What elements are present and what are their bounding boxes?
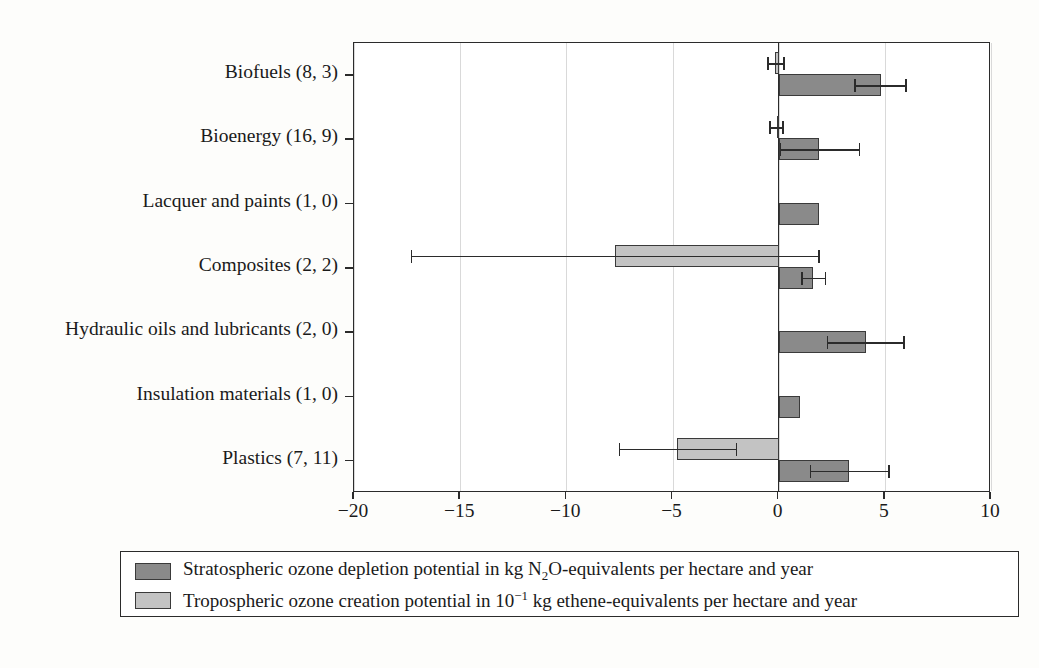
chart-figure: Biofuels (8, 3)Bioenergy (16, 9)Lacquer … [0, 0, 1039, 668]
legend-label-stratospheric: Stratospheric ozone depletion potential … [183, 558, 813, 584]
chart-legend: Stratospheric ozone depletion potential … [120, 551, 1019, 617]
bar-group [354, 43, 989, 107]
errorbar-tropospheric-cap-low [411, 250, 412, 263]
errorbar-stratospheric-line [811, 471, 890, 472]
y-axis-label-slot: Lacquer and paints (1, 0) [0, 190, 338, 216]
errorbar-stratospheric-cap-low [810, 465, 811, 478]
x-axis-tick [565, 492, 567, 499]
errorbar-stratospheric-line [855, 85, 906, 86]
y-axis-tick [345, 203, 353, 205]
x-axis-tick [883, 492, 885, 499]
errorbar-tropospheric-line [770, 127, 783, 128]
legend-swatch-stratospheric [135, 563, 171, 580]
x-axis-tick-label: −10 [530, 500, 600, 522]
x-axis-tick [352, 492, 354, 499]
x-axis-tick [671, 492, 673, 499]
errorbar-stratospheric-cap-high [859, 143, 860, 156]
errorbar-stratospheric-cap-low [854, 79, 855, 92]
legend-row-stratospheric: Stratospheric ozone depletion potential … [135, 557, 1008, 585]
errorbar-stratospheric-line [781, 149, 860, 150]
x-axis-tick-label: 0 [743, 500, 813, 522]
errorbar-tropospheric-cap-high [782, 121, 783, 134]
y-axis-tick [345, 331, 353, 333]
y-axis-label-slot: Bioenergy (16, 9) [0, 125, 338, 151]
errorbar-stratospheric-cap-low [780, 143, 781, 156]
x-axis-tick [989, 492, 991, 499]
legend-label-tropospheric: Tropospheric ozone creation potential in… [183, 588, 857, 612]
errorbar-stratospheric-line [828, 342, 904, 343]
errorbar-tropospheric-cap-high [783, 57, 784, 70]
x-axis-tick [777, 492, 779, 499]
errorbar-stratospheric-cap-high [905, 79, 906, 92]
bar-group [354, 172, 989, 236]
y-axis-category-label: Lacquer and paints (1, 0) [0, 190, 338, 212]
plot-area [353, 42, 990, 492]
y-axis-tick [345, 138, 353, 140]
errorbar-tropospheric-line [768, 63, 784, 64]
errorbar-stratospheric-cap-low [801, 272, 802, 285]
legend-swatch-tropospheric [135, 592, 171, 609]
x-axis-tick-label: −5 [637, 500, 707, 522]
errorbar-tropospheric-cap-low [619, 443, 620, 456]
errorbar-stratospheric-cap-high [825, 272, 826, 285]
bar-stratospheric [779, 203, 819, 225]
y-axis-category-label: Plastics (7, 11) [0, 447, 338, 469]
y-axis-category-label: Composites (2, 2) [0, 254, 338, 276]
x-axis-tick-label: −20 [318, 500, 388, 522]
errorbar-tropospheric-cap-high [818, 250, 819, 263]
y-axis-label-slot: Biofuels (8, 3) [0, 61, 338, 87]
y-axis-tick [345, 74, 353, 76]
errorbar-tropospheric-cap-high [736, 443, 737, 456]
legend-row-tropospheric: Tropospheric ozone creation potential in… [135, 586, 1008, 614]
y-axis-tick [345, 267, 353, 269]
y-axis-label-slot: Insulation materials (1, 0) [0, 383, 338, 409]
errorbar-tropospheric-cap-low [767, 57, 768, 70]
y-axis-category-label: Hydraulic oils and lubricants (2, 0) [0, 318, 338, 340]
errorbar-tropospheric-line [619, 449, 736, 450]
bar-group [354, 300, 989, 364]
bar-group [354, 107, 989, 171]
y-axis-label-slot: Hydraulic oils and lubricants (2, 0) [0, 318, 338, 344]
errorbar-tropospheric-cap-low [769, 121, 770, 134]
errorbar-tropospheric-line [411, 256, 819, 257]
y-axis-label-slot: Composites (2, 2) [0, 254, 338, 280]
bar-group [354, 429, 989, 493]
y-axis-category-label: Bioenergy (16, 9) [0, 125, 338, 147]
errorbar-stratospheric-line [802, 278, 825, 279]
x-axis-tick-label: 10 [955, 500, 1025, 522]
x-axis-tick-label: 5 [849, 500, 919, 522]
x-axis-tick-label: −15 [424, 500, 494, 522]
gridline [991, 43, 992, 491]
errorbar-stratospheric-cap-low [827, 336, 828, 349]
y-axis-category-label: Biofuels (8, 3) [0, 61, 338, 83]
x-axis-tick [458, 492, 460, 499]
y-axis-label-slot: Plastics (7, 11) [0, 447, 338, 473]
bar-group [354, 236, 989, 300]
bar-group [354, 364, 989, 428]
y-axis-category-label: Insulation materials (1, 0) [0, 383, 338, 405]
errorbar-stratospheric-cap-high [903, 336, 904, 349]
y-axis-tick [345, 460, 353, 462]
errorbar-stratospheric-cap-high [888, 465, 889, 478]
y-axis-tick [345, 396, 353, 398]
bar-stratospheric [779, 396, 800, 418]
